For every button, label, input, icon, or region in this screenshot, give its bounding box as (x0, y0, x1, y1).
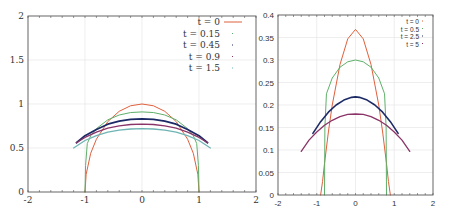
legend-swatch (232, 68, 233, 69)
legend-label: t = 1.5 (189, 63, 220, 73)
y-tick-label: 2 (18, 11, 24, 21)
y-tick-label: 0.25 (258, 79, 274, 88)
x-tick-label: -2 (274, 199, 282, 208)
x-tick-label: -1 (81, 195, 90, 205)
legend: t = 0t = 0.15t = 0.45t = 0.9t = 1.5 (183, 17, 242, 73)
y-tick-label: 0.3 (263, 56, 275, 65)
legend-label: t = 0.9 (189, 52, 220, 62)
legend-label: t = 0 (197, 17, 220, 27)
right-plot: -2-101200.050.10.150.20.250.30.350.4t = … (258, 11, 435, 208)
x-tick-label: -2 (24, 195, 33, 205)
x-tick-label: 1 (392, 199, 397, 208)
y-tick-label: 0.15 (258, 124, 274, 133)
legend-label: t = 0.15 (183, 29, 220, 39)
y-tick-label: 1.5 (10, 55, 25, 65)
y-tick-label: 0.4 (263, 11, 275, 20)
legend-label: t = 5 (406, 41, 419, 48)
x-tick-label: 2 (253, 195, 259, 205)
y-tick-label: 0 (18, 187, 24, 197)
x-tick-label: -1 (313, 199, 321, 208)
x-tick-label: 1 (196, 195, 202, 205)
x-tick-label: 2 (431, 199, 436, 208)
left-plot: -2-101200.511.52t = 0t = 0.15t = 0.45t =… (10, 11, 259, 205)
x-tick-label: 0 (353, 199, 358, 208)
legend-swatch (232, 56, 233, 57)
legend-label: t = 0.45 (183, 40, 220, 50)
y-tick-label: 1 (18, 99, 24, 109)
legend-label: t = 0 (406, 18, 419, 25)
legend-swatch (232, 33, 233, 34)
legend-swatch (232, 45, 233, 46)
y-tick-label: 0.35 (258, 34, 274, 43)
y-tick-label: 0.05 (258, 169, 274, 178)
y-tick-label: 0.1 (263, 146, 275, 155)
figure: -2-101200.511.52t = 0t = 0.15t = 0.45t =… (0, 0, 449, 217)
legend-label: t = 0.5 (401, 26, 420, 33)
legend: t = 0t = 0.5t = 2.5t = 5 (401, 18, 423, 48)
legend-swatch (422, 21, 423, 22)
legend-swatch (422, 43, 423, 44)
legend-swatch (422, 36, 423, 37)
x-tick-label: 0 (139, 195, 145, 205)
y-tick-label: 0 (270, 191, 275, 200)
legend-label: t = 2.5 (401, 33, 420, 40)
y-tick-label: 0.2 (263, 101, 275, 110)
legend-swatch (422, 28, 423, 29)
y-tick-label: 0.5 (10, 143, 25, 153)
